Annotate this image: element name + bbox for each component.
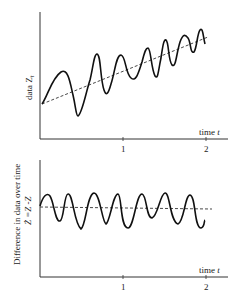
top-y-label: data Zt: [24, 75, 35, 100]
bottom-tick-label-1: 1: [121, 282, 126, 292]
bottom-data-curve: [40, 193, 205, 229]
bottom-mean-line: [40, 207, 212, 209]
bottom-x-label: time t: [199, 265, 220, 275]
bottom-y-label: Difference in data over time: [12, 164, 22, 265]
top-tick-label-1: 1: [121, 144, 126, 154]
bottom-tick-label-2: 2: [204, 282, 209, 292]
figure: 1 2 time t data Zt 1 2 time t Difference…: [0, 0, 239, 302]
top-tick-label-2: 2: [204, 144, 209, 154]
bottom-chart: 1 2 time t Difference in data over time …: [12, 160, 228, 292]
top-x-label: time t: [199, 127, 220, 137]
top-chart: 1 2 time t data Zt: [24, 12, 228, 154]
bottom-y-label-formula: Ż =Z -Z: [23, 195, 33, 225]
top-trend-line: [42, 37, 208, 104]
top-data-curve: [42, 29, 205, 116]
